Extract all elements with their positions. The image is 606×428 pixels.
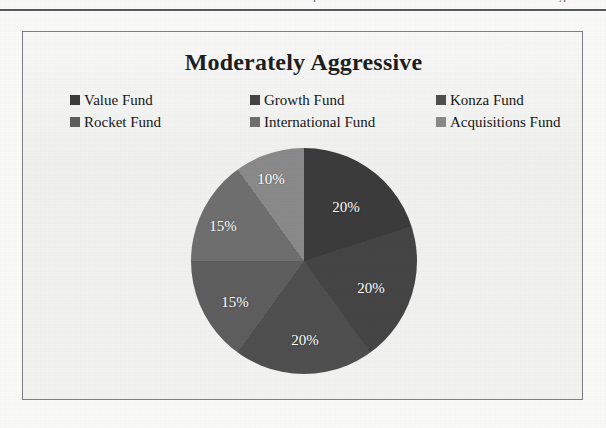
pie-slice-label: 15%	[221, 294, 249, 311]
legend-swatch-icon	[436, 117, 446, 127]
legend-label: Rocket Fund	[84, 114, 161, 131]
legend-item-acquisitions-fund[interactable]: Acquisitions Fund	[436, 114, 556, 131]
legend-label: Acquisitions Fund	[450, 114, 560, 131]
legend-swatch-icon	[250, 95, 260, 105]
pie-slice-label: 20%	[332, 199, 360, 216]
legend-swatch-icon	[70, 95, 80, 105]
legend-item-rocket-fund[interactable]: Rocket Fund	[70, 114, 250, 131]
legend-swatch-icon	[250, 117, 260, 127]
document-page: p g Moderately Aggressive Value Fund Gro…	[0, 0, 606, 428]
chart-title: Moderately Aggressive	[23, 49, 584, 76]
legend-item-value-fund[interactable]: Value Fund	[70, 92, 250, 109]
legend-row: Value Fund Growth Fund Konza Fund	[70, 89, 556, 111]
legend-label: Value Fund	[84, 92, 153, 109]
header-fragment-0: p	[313, 0, 320, 2]
legend-item-konza-fund[interactable]: Konza Fund	[436, 92, 556, 109]
chart-legend: Value Fund Growth Fund Konza Fund Rocket…	[70, 89, 556, 133]
legend-label: Konza Fund	[450, 92, 524, 109]
pie-slice-label: 10%	[257, 171, 285, 188]
pie-chart: 20% 20% 20% 15% 15% 10%	[191, 148, 417, 374]
header-rule-divider	[0, 9, 606, 11]
legend-label: International Fund	[264, 114, 375, 131]
chart-container: Moderately Aggressive Value Fund Growth …	[22, 31, 583, 400]
legend-label: Growth Fund	[264, 92, 344, 109]
legend-swatch-icon	[436, 95, 446, 105]
legend-swatch-icon	[70, 117, 80, 127]
pie-slice-label: 20%	[291, 332, 319, 349]
legend-item-international-fund[interactable]: International Fund	[250, 114, 436, 131]
header-fragment-1: g	[559, 0, 566, 2]
legend-row: Rocket Fund International Fund Acquisiti…	[70, 111, 556, 133]
legend-item-growth-fund[interactable]: Growth Fund	[250, 92, 436, 109]
header-text-fragments: p g	[0, 0, 606, 2]
pie-slice-label: 15%	[209, 218, 237, 235]
pie-slice-label: 20%	[357, 280, 385, 297]
